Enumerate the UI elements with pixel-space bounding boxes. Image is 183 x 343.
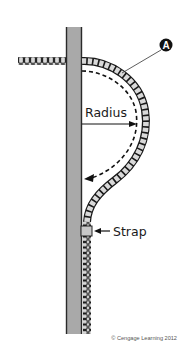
pole bbox=[66, 27, 82, 334]
radius-label: Radius bbox=[85, 105, 127, 120]
arrowhead-icon bbox=[94, 228, 101, 234]
diagram-canvas: Radius Strap A © Cengage Learning 2012 bbox=[0, 0, 183, 343]
bent-cable bbox=[82, 61, 146, 334]
strap-label: Strap bbox=[113, 224, 147, 239]
radius-dimension: Radius bbox=[82, 105, 137, 127]
arrowhead-icon bbox=[84, 174, 94, 182]
callout-letter: A bbox=[162, 40, 169, 51]
callout-a: A bbox=[122, 39, 173, 74]
incoming-cable bbox=[18, 57, 66, 65]
copyright-notice: © Cengage Learning 2012 bbox=[111, 335, 177, 341]
